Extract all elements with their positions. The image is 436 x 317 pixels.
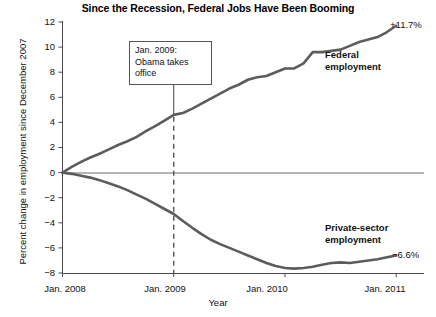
value-label-private-sector: −6.6% [392,249,419,260]
series-label-federal-text: Federal employment [325,49,381,72]
series-label-private-sector-text: Private-sector employment [325,222,388,245]
annotation-line-1: Jan. 2009: [135,45,207,57]
annotation-line-2: Obama takes [135,57,207,69]
series-line-private-sector [63,173,397,269]
value-label-federal: +11.7% [390,19,422,30]
chart-container: Since the Recession, Federal Jobs Have B… [0,0,436,317]
plot-area [0,0,436,317]
y-tick-marks [59,22,63,273]
series-label-federal: Federal employment [325,49,405,72]
series-label-private-sector: Private-sector employment [325,222,420,245]
annotation-line-3: office [135,68,207,80]
annotation-obama-takes-office: Jan. 2009: Obama takes office [129,41,212,85]
series-line-federal [63,26,397,173]
